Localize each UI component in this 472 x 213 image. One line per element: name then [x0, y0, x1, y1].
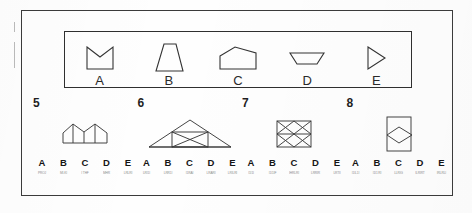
- option-bubble-mark: I THF: [81, 171, 88, 174]
- option-bubble-mark: LRRIR: [311, 171, 320, 174]
- option-bubble-mark: LRILRI: [228, 171, 237, 174]
- test-sheet-page: A B C D: [0, 0, 472, 213]
- option-bubble-mark: MHR: [103, 171, 110, 174]
- scan-artifact-mark: [14, 22, 15, 32]
- answer-key-box: A B C D: [64, 31, 412, 88]
- option-letter: A: [352, 158, 359, 168]
- rectangle-with-two-bowtie-crosses-figure: [239, 113, 349, 155]
- option-letter: B: [165, 158, 172, 168]
- option-a[interactable]: A LRI1I: [138, 158, 156, 175]
- option-letter: D: [208, 158, 215, 168]
- problem-5: 5 A PROJ B MI-KI C: [30, 96, 135, 190]
- option-c[interactable]: C LLRIG: [390, 158, 408, 175]
- option-letter: E: [125, 158, 131, 168]
- problem-8: 8 A I1IL1I B I1I1 RI C LLRIG: [344, 96, 449, 190]
- rectangle-with-inner-diamond-figure: [344, 113, 454, 155]
- option-letter: E: [229, 158, 235, 168]
- option-c[interactable]: C IHRLRI: [285, 158, 303, 175]
- key-option-d[interactable]: D: [276, 35, 338, 87]
- key-option-label: E: [372, 74, 381, 87]
- option-bubble-mark: I1I1I: [248, 171, 254, 174]
- option-bubble-mark: LRARI: [207, 171, 216, 174]
- key-option-c[interactable]: C: [207, 35, 269, 87]
- option-c[interactable]: C I1RAI: [181, 158, 199, 175]
- option-letter: B: [60, 158, 67, 168]
- option-letter: C: [291, 158, 298, 168]
- option-letter: C: [395, 158, 402, 168]
- options-row-problem-8: A I1IL1I B I1I1 RI C LLRIG D ILRIRT E: [344, 158, 454, 175]
- option-bubble-mark: PROJ: [38, 171, 46, 174]
- option-bubble-mark: LRR1I: [164, 171, 173, 174]
- scan-artifact-mark: [14, 42, 15, 68]
- key-option-a[interactable]: A: [69, 35, 131, 87]
- option-bubble-mark: LRTII: [333, 171, 340, 174]
- option-letter: B: [374, 158, 381, 168]
- option-letter: D: [417, 158, 424, 168]
- pentagon-house-shape: [218, 43, 258, 73]
- square-with-v-notch-top-shape: [85, 43, 115, 73]
- problems-row: 5 A PROJ B MI-KI C: [30, 96, 448, 190]
- option-letter: A: [39, 158, 46, 168]
- option-b[interactable]: B I1I1IF: [264, 158, 282, 175]
- option-d[interactable]: D MHR: [98, 158, 116, 175]
- problem-number: 8: [347, 96, 354, 110]
- option-letter: D: [312, 158, 319, 168]
- double-pentagon-roofline-figure: [30, 113, 140, 155]
- option-letter: C: [82, 158, 89, 168]
- option-a[interactable]: A I1I1I: [242, 158, 260, 175]
- problem-7: 7 A I1I1I: [239, 96, 344, 190]
- option-bubble-mark: LRLRI: [124, 171, 133, 174]
- triangle-with-inner-crossed-rectangle-figure: [135, 113, 245, 155]
- problem-number: 7: [242, 96, 249, 110]
- option-letter: E: [334, 158, 340, 168]
- options-row-problem-7: A I1I1I B I1I1IF C IHRLRI D LRRIR E LR: [239, 158, 349, 175]
- option-bubble-mark: I1IL1I: [352, 171, 359, 174]
- option-e[interactable]: E IRLRLI: [433, 158, 451, 175]
- option-bubble-mark: LRI1I: [143, 171, 150, 174]
- shallow-inverted-trapezoid-shape: [289, 43, 325, 73]
- option-bubble-mark: I1I1 RI: [373, 171, 382, 174]
- key-option-e[interactable]: E: [345, 35, 407, 87]
- option-b[interactable]: B LRR1I: [159, 158, 177, 175]
- key-option-label: A: [95, 74, 104, 87]
- option-bubble-mark: ILRIRT: [415, 171, 424, 174]
- options-row-problem-6: A LRI1I B LRR1I C I1RAI D LRARI E LRIL: [135, 158, 245, 175]
- option-letter: E: [438, 158, 444, 168]
- right-pointing-triangle-shape: [365, 43, 387, 73]
- option-letter: D: [103, 158, 110, 168]
- problem-6: 6 A LRI1I B LRR1I: [135, 96, 240, 190]
- option-bubble-mark: I1I1IF: [269, 171, 277, 174]
- option-bubble-mark: LLRIG: [394, 171, 403, 174]
- problem-number: 5: [33, 96, 40, 110]
- option-d[interactable]: D ILRIRT: [411, 158, 429, 175]
- option-b[interactable]: B I1I1 RI: [368, 158, 386, 175]
- option-letter: A: [143, 158, 150, 168]
- option-d[interactable]: D LRRIR: [307, 158, 325, 175]
- option-bubble-mark: MI-KI: [60, 171, 67, 174]
- key-option-label: B: [164, 74, 173, 87]
- option-a[interactable]: A PROJ: [33, 158, 51, 175]
- option-d[interactable]: D LRARI: [202, 158, 220, 175]
- option-letter: C: [186, 158, 193, 168]
- option-c[interactable]: C I THF: [76, 158, 94, 175]
- trapezoid-narrow-top-shape: [153, 43, 185, 73]
- option-bubble-mark: IRLRLI: [437, 171, 446, 174]
- option-bubble-mark: IHRLRI: [289, 171, 299, 174]
- option-letter: A: [248, 158, 255, 168]
- option-bubble-mark: I1RAI: [186, 171, 193, 174]
- key-option-label: C: [233, 74, 242, 87]
- problem-number: 6: [138, 96, 145, 110]
- key-option-label: D: [302, 74, 311, 87]
- key-option-b[interactable]: B: [138, 35, 200, 87]
- options-row-problem-5: A PROJ B MI-KI C I THF D MHR E LRLRI: [30, 158, 140, 175]
- option-b[interactable]: B MI-KI: [55, 158, 73, 175]
- option-a[interactable]: A I1IL1I: [347, 158, 365, 175]
- option-letter: B: [269, 158, 276, 168]
